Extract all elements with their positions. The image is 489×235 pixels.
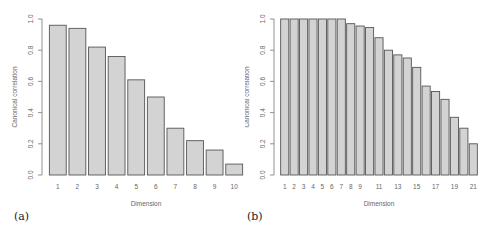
bar: [337, 19, 345, 175]
bar: [147, 97, 164, 175]
y-tick-label: 1.0: [259, 14, 266, 23]
x-tick-label: 21: [470, 183, 478, 190]
x-tick-label: 9: [213, 183, 217, 190]
bar: [108, 56, 125, 175]
x-tick-label: 4: [115, 183, 119, 190]
y-tick-label: 0.6: [27, 77, 34, 86]
x-tick-label: 13: [394, 183, 402, 190]
bar: [206, 150, 223, 175]
bar: [290, 19, 298, 175]
x-tick-label: 5: [134, 183, 138, 190]
x-tick-label: 7: [174, 183, 178, 190]
bar: [226, 164, 243, 175]
y-axis-label: Canonical correlation: [245, 66, 250, 127]
bar: [366, 28, 374, 175]
y-tick-label: 0.0: [259, 170, 266, 179]
panel-label-a: (a): [14, 210, 29, 223]
x-tick-label: 19: [451, 183, 459, 190]
bar: [49, 25, 66, 175]
bar: [347, 24, 355, 175]
x-tick-label: 17: [432, 183, 440, 190]
bar: [384, 50, 392, 175]
bar-chart-a: 0.00.20.40.60.81.0Canonical correlation1…: [0, 0, 245, 235]
y-tick-label: 1.0: [27, 14, 34, 23]
bar: [450, 117, 458, 175]
x-tick-label: 11: [376, 183, 383, 190]
bar: [356, 26, 364, 175]
bar: [422, 86, 430, 175]
y-tick-label: 0.8: [27, 45, 34, 54]
bar: [441, 99, 449, 175]
x-tick-label: 2: [292, 183, 296, 190]
bar: [167, 128, 184, 175]
bar: [318, 19, 326, 175]
bar: [187, 141, 204, 175]
x-tick-label: 10: [231, 183, 239, 190]
bar-chart-b: 0.00.20.40.60.81.0Canonical correlation1…: [245, 0, 489, 235]
x-tick-label: 4: [311, 183, 315, 190]
x-tick-label: 5: [321, 183, 325, 190]
bar: [469, 144, 477, 175]
y-tick-label: 0.8: [259, 45, 266, 54]
chart-panel-a: 0.00.20.40.60.81.0Canonical correlation1…: [0, 0, 245, 235]
bar: [413, 67, 421, 175]
bar: [375, 38, 383, 175]
x-tick-label: 3: [302, 183, 306, 190]
bar: [394, 55, 402, 175]
x-axis-label: Dimension: [364, 200, 395, 207]
y-tick-label: 0.2: [259, 139, 266, 148]
x-tick-label: 2: [76, 183, 80, 190]
bar: [432, 92, 440, 175]
bar: [128, 80, 145, 175]
x-tick-label: 1: [56, 183, 60, 190]
bar: [69, 28, 86, 175]
x-tick-label: 6: [154, 183, 158, 190]
bar: [328, 19, 336, 175]
x-tick-label: 7: [339, 183, 343, 190]
panel-label-b: (b): [247, 210, 263, 223]
x-tick-label: 6: [330, 183, 334, 190]
bar: [281, 19, 289, 175]
y-tick-label: 0.2: [27, 139, 34, 148]
bar: [309, 19, 317, 175]
bar: [460, 128, 468, 175]
x-tick-label: 9: [358, 183, 362, 190]
x-tick-label: 15: [413, 183, 421, 190]
bar: [89, 47, 106, 175]
x-tick-label: 8: [349, 183, 353, 190]
y-tick-label: 0.4: [27, 108, 34, 117]
bar: [300, 19, 308, 175]
chart-panel-b: 0.00.20.40.60.81.0Canonical correlation1…: [245, 0, 489, 235]
y-axis-label: Canonical correlation: [11, 66, 18, 127]
bar: [403, 58, 411, 175]
y-tick-label: 0.6: [259, 77, 266, 86]
x-tick-label: 3: [95, 183, 99, 190]
x-tick-label: 8: [193, 183, 197, 190]
x-tick-label: 1: [283, 183, 287, 190]
x-axis-label: Dimension: [131, 200, 162, 207]
y-tick-label: 0.4: [259, 108, 266, 117]
y-tick-label: 0.0: [27, 170, 34, 179]
